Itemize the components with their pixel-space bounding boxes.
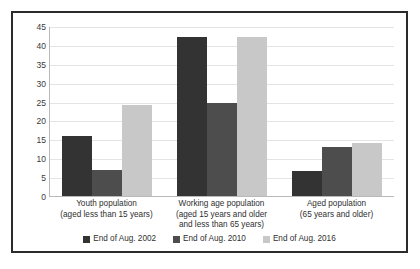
x-axis-category-label: Aged population(65 years and older) <box>279 199 394 231</box>
legend-item[interactable]: End of Aug. 2002 <box>83 235 156 243</box>
bar[interactable] <box>322 147 352 196</box>
bar[interactable] <box>292 171 322 196</box>
y-axis-tick-label: 5 <box>41 174 46 183</box>
plot-area: 051015202530354045 <box>49 27 394 197</box>
legend-item-label: End of Aug. 2010 <box>183 235 246 243</box>
x-axis-category-label-line: Working age population <box>164 199 279 210</box>
legend-swatch-icon <box>173 236 180 243</box>
bar[interactable] <box>122 105 152 196</box>
y-axis-tick-label: 35 <box>37 61 46 70</box>
y-axis-tick-label: 45 <box>37 23 46 32</box>
x-axis-category-label-line: (aged 15 years and older <box>164 210 279 221</box>
bar[interactable] <box>207 103 237 196</box>
bar[interactable] <box>62 136 92 196</box>
x-axis-category-label-line: and less than 65 years) <box>164 220 279 231</box>
bar[interactable] <box>92 170 122 196</box>
legend-item[interactable]: End of Aug. 2010 <box>173 235 246 243</box>
legend-swatch-icon <box>83 236 90 243</box>
chart-frame: 051015202530354045 Youth population(aged… <box>11 11 408 253</box>
legend-swatch-icon <box>263 236 270 243</box>
bar-group <box>279 27 394 196</box>
x-axis-category-labels: Youth population(aged less than 15 years… <box>49 199 394 231</box>
chart-legend: End of Aug. 2002End of Aug. 2010End of A… <box>13 235 406 243</box>
bar[interactable] <box>352 143 382 196</box>
y-axis-tick-label: 25 <box>37 98 46 107</box>
y-axis-tick-label: 15 <box>37 136 46 145</box>
x-axis-category-label-line: (aged less than 15 years) <box>49 210 164 221</box>
y-axis-tick-label: 0 <box>41 193 46 202</box>
bar[interactable] <box>177 37 207 196</box>
legend-item[interactable]: End of Aug. 2016 <box>263 235 336 243</box>
y-axis-tick-label: 40 <box>37 42 46 51</box>
bar-group <box>50 27 165 196</box>
y-axis-tick-label: 20 <box>37 117 46 126</box>
legend-item-label: End of Aug. 2002 <box>93 235 156 243</box>
x-axis-category-label: Working age population(aged 15 years and… <box>164 199 279 231</box>
bar-group <box>165 27 280 196</box>
x-axis-category-label: Youth population(aged less than 15 years… <box>49 199 164 231</box>
x-axis-category-label-line: Aged population <box>279 199 394 210</box>
bar-groups <box>50 27 394 196</box>
y-axis-tick-label: 10 <box>37 155 46 164</box>
y-axis-tick-label: 30 <box>37 79 46 88</box>
x-axis-category-label-line: (65 years and older) <box>279 210 394 221</box>
bar[interactable] <box>237 37 267 196</box>
legend-item-label: End of Aug. 2016 <box>273 235 336 243</box>
x-axis-category-label-line: Youth population <box>49 199 164 210</box>
